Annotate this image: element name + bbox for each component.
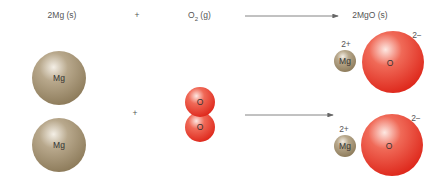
svg-text:Mg: Mg (339, 56, 351, 66)
svg-text:2−: 2− (411, 113, 421, 123)
reactant-o2-label: O2 (g) (188, 10, 211, 22)
mg-atom-bottom: Mg (32, 118, 86, 172)
product-mgo-label: 2MgO (s) (352, 10, 388, 20)
svg-text:2+: 2+ (339, 124, 349, 134)
svg-text:O: O (197, 122, 204, 132)
reactant-mg-label: 2Mg (s) (48, 10, 77, 20)
svg-text:2−: 2− (412, 30, 422, 40)
reaction-diagram: 2Mg (s) + O2 (g) 2MgO (s) Mg Mg + O O Mg… (0, 0, 439, 187)
svg-text:Mg: Mg (339, 141, 351, 151)
svg-text:2+: 2+ (341, 39, 351, 49)
plus-sign-middle: + (133, 108, 138, 118)
plus-sign-top: + (135, 10, 140, 20)
svg-text:O: O (386, 141, 393, 151)
svg-text:Mg: Mg (53, 140, 65, 150)
svg-text:O: O (387, 58, 394, 68)
mgo-ion-pair-bottom: Mg O 2+ 2− (334, 113, 423, 176)
svg-text:Mg: Mg (53, 73, 65, 83)
mg-atom-top: Mg (32, 51, 86, 105)
svg-text:O: O (197, 97, 204, 107)
o2-molecule: O O (185, 87, 215, 142)
mgo-ion-pair-top: Mg O 2+ 2− (334, 30, 424, 93)
